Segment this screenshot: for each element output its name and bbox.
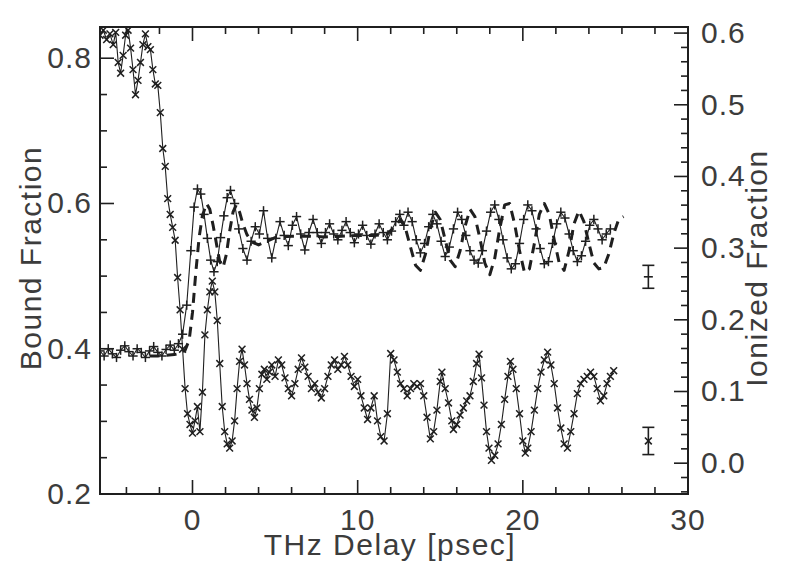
right-tick-label-4: 0.4 bbox=[701, 159, 746, 192]
plot-frame bbox=[100, 27, 688, 494]
left-tick-label-1: 0.4 bbox=[47, 332, 92, 365]
left-axis-title: Bound Fraction bbox=[14, 146, 48, 370]
figure-root: 01020300.20.40.60.80.00.10.20.30.40.50.6… bbox=[0, 0, 786, 582]
right-tick-label-0: 0.0 bbox=[701, 446, 746, 479]
right-tick-label-1: 0.1 bbox=[701, 374, 746, 407]
right-tick-label-6: 0.6 bbox=[701, 16, 746, 49]
left-tick-label-3: 0.8 bbox=[47, 41, 92, 74]
right-tick-label-5: 0.5 bbox=[701, 88, 746, 121]
x-tick-label-0: 0 bbox=[184, 503, 202, 536]
x-axis-title: THz Delay [psec] bbox=[264, 528, 516, 562]
error-bar-upper bbox=[642, 265, 654, 288]
left-tick-label-2: 0.6 bbox=[47, 186, 92, 219]
right-tick-label-3: 0.3 bbox=[701, 231, 746, 264]
series-model-fit-dashed bbox=[150, 204, 624, 357]
x-tick-label-3: 30 bbox=[670, 503, 705, 536]
right-axis-title: Ionized Fraction bbox=[740, 149, 774, 386]
left-axis-ticks: 0.20.40.60.8 bbox=[47, 41, 114, 510]
chart-canvas: 01020300.20.40.60.80.00.10.20.30.40.50.6 bbox=[0, 0, 786, 582]
right-axis-ticks: 0.00.10.20.30.40.50.6 bbox=[674, 16, 746, 492]
right-tick-label-2: 0.2 bbox=[701, 303, 746, 336]
left-tick-label-0: 0.2 bbox=[47, 477, 92, 510]
error-bar-lower bbox=[642, 427, 654, 454]
